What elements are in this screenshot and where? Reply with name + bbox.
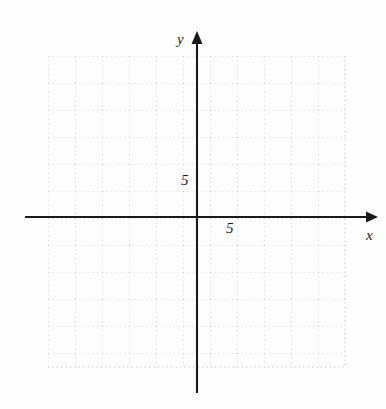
y-axis-tick-label-5: 5 (181, 173, 189, 188)
coordinate-plane-figure: y x 5 5 (0, 0, 386, 409)
graph-canvas (0, 0, 386, 409)
x-axis-tick-label-5: 5 (226, 221, 234, 236)
y-axis-label: y (177, 32, 184, 47)
x-axis-label: x (366, 228, 373, 243)
